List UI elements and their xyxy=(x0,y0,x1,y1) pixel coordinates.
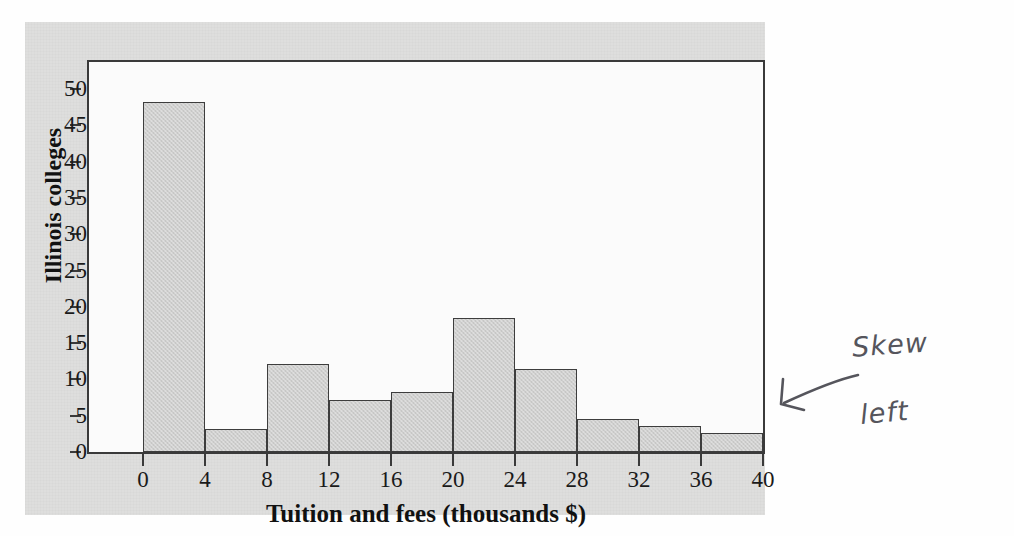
x-axis-tick-label: 40 xyxy=(740,468,786,491)
plot-area xyxy=(87,60,765,454)
x-axis-tick xyxy=(700,454,702,466)
histogram-bar xyxy=(391,392,453,452)
y-axis-tick-label: 0 xyxy=(43,440,87,463)
x-axis-tick-label: 0 xyxy=(120,468,166,491)
x-axis-tick xyxy=(204,454,206,466)
y-axis-tick-label: 10 xyxy=(43,367,87,390)
histogram-bar xyxy=(267,364,329,452)
x-axis-tick xyxy=(514,454,516,466)
histogram-bar xyxy=(577,419,639,452)
histogram-bar xyxy=(329,400,391,452)
x-axis-title: Tuition and fees (thousands $) xyxy=(87,500,765,528)
y-axis-title: Illinois colleges xyxy=(40,66,67,346)
histogram-bar xyxy=(639,426,701,452)
x-axis-tick-label: 8 xyxy=(244,468,290,491)
x-axis-tick-label: 24 xyxy=(492,468,538,491)
x-axis-tick-label: 28 xyxy=(554,468,600,491)
histogram-bar xyxy=(143,102,205,452)
chart-container: 05101520253035404550 0481216202428323640… xyxy=(25,22,765,515)
x-axis-tick-label: 16 xyxy=(368,468,414,491)
annotation-line-left: left xyxy=(859,395,911,430)
x-axis-tick xyxy=(452,454,454,466)
scanned-page: the distributionin a symmetricFigure 1.8… xyxy=(0,0,1014,536)
y-axis-tick-label: 5 xyxy=(43,404,87,427)
x-axis-tick xyxy=(390,454,392,466)
x-axis-tick-label: 4 xyxy=(182,468,228,491)
x-axis-tick-label: 20 xyxy=(430,468,476,491)
arrow-icon xyxy=(770,369,862,421)
x-axis-tick xyxy=(142,454,144,466)
histogram-bar xyxy=(701,433,763,452)
annotation-line-skew: Skew xyxy=(851,326,929,362)
x-axis-tick xyxy=(266,454,268,466)
histogram-bar xyxy=(515,369,577,452)
histogram-bar xyxy=(453,318,515,452)
x-axis-tick xyxy=(762,454,764,466)
handwritten-annotation: Skew left xyxy=(770,325,1010,465)
x-axis-line xyxy=(87,452,765,454)
x-axis-tick xyxy=(328,454,330,466)
x-axis-tick xyxy=(638,454,640,466)
x-axis-tick-label: 36 xyxy=(678,468,724,491)
histogram-bar xyxy=(205,429,267,452)
x-axis-tick-label: 32 xyxy=(616,468,662,491)
x-axis-tick xyxy=(576,454,578,466)
x-axis-tick-label: 12 xyxy=(306,468,352,491)
